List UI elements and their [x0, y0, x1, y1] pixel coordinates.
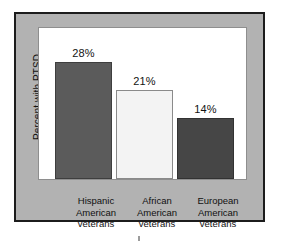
plot-area: 28% 21% 14%	[38, 27, 247, 180]
bar-european[interactable]	[177, 118, 234, 179]
figure-canvas: Percent with PTSD 28% 21% 14% Hi	[0, 0, 281, 248]
print-artifact-mark	[138, 236, 140, 241]
bar-african[interactable]	[116, 90, 173, 179]
category-label-line1: European	[185, 195, 251, 207]
category-label-line2: American	[185, 207, 251, 219]
category-label-line2: American	[124, 207, 190, 219]
bar-series: 28% 21% 14%	[39, 28, 246, 179]
category-label-european: European American veterans	[185, 195, 251, 230]
category-label-hispanic: Hispanic American veterans	[63, 195, 129, 230]
chart-frame: Percent with PTSD 28% 21% 14% Hi	[14, 12, 265, 222]
category-label-african: African American veterans	[124, 195, 190, 230]
category-label-line2: American	[63, 207, 129, 219]
bar-value-label-european: 14%	[177, 103, 234, 115]
bar-hispanic[interactable]	[55, 62, 112, 179]
x-axis-category-labels: Hispanic American veterans African Ameri…	[52, 195, 261, 235]
category-label-line3: veterans	[63, 218, 129, 230]
category-label-line1: Hispanic	[63, 195, 129, 207]
category-label-line1: African	[124, 195, 190, 207]
bar-value-label-hispanic: 28%	[55, 47, 112, 59]
bar-value-label-african: 21%	[116, 75, 173, 87]
category-label-line3: veterans	[185, 218, 251, 230]
category-label-line3: veterans	[124, 218, 190, 230]
